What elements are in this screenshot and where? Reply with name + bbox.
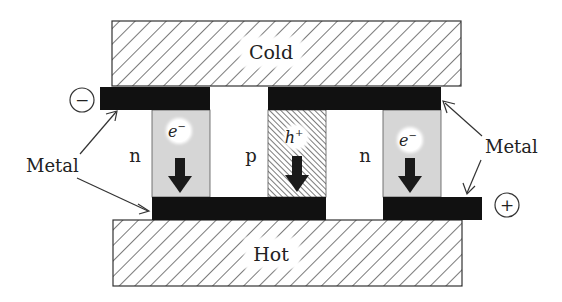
n-type-label: n bbox=[359, 145, 371, 166]
cold-plate: Cold bbox=[112, 21, 461, 86]
p-leg: h+ bbox=[268, 110, 326, 197]
svg-text:−: − bbox=[75, 90, 89, 110]
hot-label: Hot bbox=[253, 243, 289, 265]
arrow-icon bbox=[443, 101, 482, 194]
metal-bottom-left bbox=[152, 197, 326, 220]
cold-label: Cold bbox=[249, 41, 293, 63]
n-leg-left: e− bbox=[152, 110, 210, 197]
metal-label-left: Metal bbox=[26, 155, 79, 176]
metal-bottom-right bbox=[383, 197, 482, 220]
negative-terminal-icon: − bbox=[70, 88, 94, 112]
hot-plate: Hot bbox=[113, 220, 462, 286]
n-leg-right: e− bbox=[383, 110, 441, 197]
positive-terminal-icon: + bbox=[495, 193, 519, 217]
metal-top-left bbox=[100, 87, 210, 110]
n-type-label: n bbox=[129, 145, 141, 166]
metal-top-right bbox=[268, 87, 441, 110]
p-type-label: p bbox=[245, 145, 257, 166]
svg-text:+: + bbox=[500, 195, 514, 215]
metal-label-right: Metal bbox=[485, 136, 538, 157]
thermoelectric-diagram: Cold Hot e− h+ e− bbox=[0, 0, 562, 302]
